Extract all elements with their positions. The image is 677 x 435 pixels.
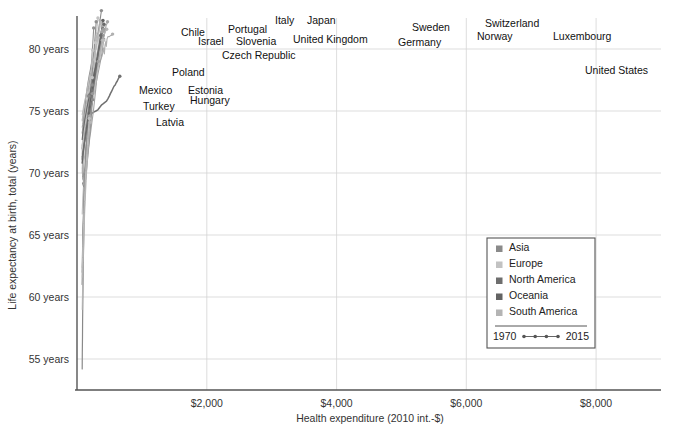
country-label: Germany (398, 36, 442, 48)
country-label: Italy (275, 14, 295, 26)
legend-gradient-dot (522, 335, 526, 339)
country-label: Switzerland (485, 17, 539, 29)
series-endpoint (102, 23, 105, 26)
series-endpoint (95, 35, 98, 38)
series-endpoint (90, 83, 93, 86)
legend-swatch[interactable] (496, 278, 503, 285)
country-label: Norway (477, 30, 513, 42)
y-tick-label: 65 years (29, 229, 69, 241)
y-axis-title: Life expectancy at birth, total (years) (6, 140, 18, 309)
series-endpoint (118, 75, 121, 78)
series-endpoint (99, 34, 102, 37)
x-tick-label: $6,000 (450, 397, 482, 409)
series-endpoint (105, 28, 108, 31)
series-endpoint (95, 20, 98, 23)
series-endpoint (100, 9, 103, 12)
y-tick-label: 60 years (29, 291, 69, 303)
series-endpoint (91, 49, 94, 52)
legend-gradient-dot (556, 335, 560, 339)
legend-gradient-dot (533, 335, 537, 339)
y-tick-label: 75 years (29, 105, 69, 117)
x-axis-title: Health expenditure (2010 int.-$) (296, 412, 444, 424)
legend-gradient-dot (545, 335, 549, 339)
series-endpoint (111, 32, 114, 35)
legend-label[interactable]: Oceania (509, 289, 548, 301)
series-endpoint (92, 26, 95, 29)
legend-range-start: 1970 (493, 330, 517, 342)
legend-swatch[interactable] (496, 246, 503, 253)
country-label: Japan (307, 14, 336, 26)
country-label: Slovenia (236, 35, 276, 47)
series-endpoint (87, 94, 90, 97)
country-label: United Kingdom (293, 33, 368, 45)
legend-range-end: 2015 (566, 330, 590, 342)
legend-label[interactable]: Europe (509, 257, 543, 269)
y-tick-label: 70 years (29, 167, 69, 179)
series-endpoint (101, 30, 104, 33)
legend-label[interactable]: South America (509, 305, 577, 317)
series-endpoint (97, 60, 100, 63)
series-endpoint (96, 16, 99, 19)
country-label: Luxembourg (553, 30, 612, 42)
life-expectancy-vs-health-expenditure-chart: 55 years60 years65 years70 years75 years… (0, 0, 677, 435)
chart-legend[interactable]: AsiaEuropeNorth AmericaOceaniaSouth Amer… (487, 238, 595, 348)
legend-swatch[interactable] (496, 262, 503, 269)
legend-swatch[interactable] (496, 294, 503, 301)
country-label: Mexico (139, 84, 172, 96)
country-label: Latvia (156, 116, 184, 128)
country-label: Israel (198, 35, 224, 47)
x-tick-label: $2,000 (191, 397, 223, 409)
legend-label[interactable]: North America (509, 273, 576, 285)
x-tick-label: $4,000 (321, 397, 353, 409)
series-endpoint (91, 92, 94, 95)
series-endpoint (91, 76, 94, 79)
series-endpoint (102, 39, 105, 42)
country-label: Turkey (143, 100, 175, 112)
y-tick-label: 55 years (29, 353, 69, 365)
legend-label[interactable]: Asia (509, 241, 530, 253)
country-label: Portugal (228, 23, 267, 35)
series-endpoint (88, 117, 91, 120)
legend-swatch[interactable] (496, 310, 503, 317)
series-endpoint (94, 41, 97, 44)
country-label: Poland (172, 66, 205, 78)
y-tick-label: 80 years (29, 43, 69, 55)
series-endpoint (88, 121, 91, 124)
series-endpoint (91, 98, 94, 101)
series-endpoint (106, 20, 109, 23)
chart-svg: 55 years60 years65 years70 years75 years… (0, 0, 677, 435)
series-endpoint (99, 21, 102, 24)
country-label: Czech Republic (222, 49, 296, 61)
country-label: Sweden (412, 21, 450, 33)
country-label: United States (585, 64, 648, 76)
x-tick-label: $8,000 (580, 397, 612, 409)
chart-background (0, 0, 677, 435)
country-label: Hungary (190, 94, 230, 106)
